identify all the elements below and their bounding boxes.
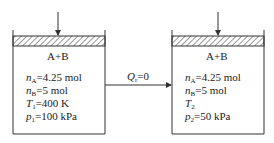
T-label-1: T1=400 K [26, 97, 69, 110]
nB-label-2: nB=5 mol [185, 84, 227, 97]
heat-label: Qr=0 [127, 70, 149, 83]
mixture-label-2: A+B [206, 50, 227, 63]
nB-label-1: nB=5 mol [26, 84, 68, 97]
T-label-2: T2 [185, 97, 195, 110]
nA-label-1: nA=4.25 mol [26, 71, 82, 84]
piston-2 [172, 36, 264, 46]
p-label-1: p1=100 kPa [26, 110, 77, 123]
piston-1 [13, 36, 105, 46]
p-label-2: p2=50 kPa [185, 110, 230, 123]
nA-label-2: nA=4.25 mol [185, 71, 241, 84]
mixture-label-1: A+B [47, 50, 68, 63]
